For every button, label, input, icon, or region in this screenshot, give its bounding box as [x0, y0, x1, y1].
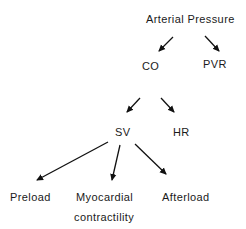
arrow-sv-to-preload	[37, 142, 108, 180]
node-myocardial-line1: Myocardial	[76, 191, 133, 203]
node-preload: Preload	[10, 191, 51, 203]
node-pvr: PVR	[203, 58, 227, 70]
arrow-sv-to-afterload	[135, 144, 166, 174]
node-afterload: Afterload	[162, 191, 210, 203]
arrow-ap-to-co	[159, 37, 173, 51]
diagram-canvas: Arterial Pressure CO PVR SV HR Preload M…	[0, 0, 246, 229]
node-hr: HR	[173, 126, 190, 138]
arrow-co-to-sv	[127, 98, 140, 112]
arrow-sv-to-myocardial	[112, 145, 120, 180]
node-arterial-pressure: Arterial Pressure	[146, 13, 235, 25]
arrow-ap-to-pvr	[205, 36, 219, 51]
node-myocardial-line2: contractility	[74, 211, 134, 223]
arrow-co-to-hr	[161, 98, 174, 112]
node-co: CO	[142, 60, 159, 72]
node-sv: SV	[115, 126, 130, 138]
